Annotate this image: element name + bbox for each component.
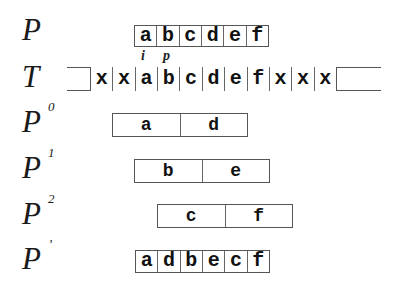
cell: f <box>225 205 293 227</box>
row-label-p2: P2 <box>22 198 54 229</box>
cell: d <box>180 114 248 136</box>
cell: a <box>113 114 180 136</box>
cell: x <box>291 67 313 91</box>
marker-i: i <box>141 49 145 63</box>
cell: a <box>136 251 157 272</box>
label-text: P <box>22 196 41 231</box>
cell: b <box>156 26 178 46</box>
pattern-pprime-strip: a d b e c f <box>135 250 270 273</box>
row-label-p: P <box>22 14 41 45</box>
label-text: P <box>22 104 41 139</box>
cell: b <box>157 67 179 91</box>
cell: x <box>269 67 291 91</box>
cell: c <box>179 67 201 91</box>
label-text: P <box>22 150 41 185</box>
cell: a <box>135 67 157 91</box>
label-superscript: 1 <box>48 145 55 160</box>
cell: f <box>246 26 268 46</box>
cell: e <box>202 160 270 182</box>
marker-p: p <box>163 49 170 63</box>
cell: b <box>135 160 202 182</box>
pattern-p0-strip: a d <box>112 113 248 137</box>
label-superscript: 2 <box>48 191 55 206</box>
cell: c <box>224 251 246 272</box>
cell: c <box>179 26 201 46</box>
label-superscript: 0 <box>48 99 55 114</box>
row-label-p0: P0 <box>22 106 54 137</box>
label-text: P <box>22 241 41 276</box>
label-text: T <box>22 59 39 94</box>
text-t-strip: x x a b c d e f x x x <box>90 67 337 91</box>
row-label-pprime: P’ <box>22 243 52 274</box>
cell: a <box>135 26 156 46</box>
pattern-p-strip: a b c d e f <box>134 25 269 47</box>
label-text: P <box>22 12 41 47</box>
cell: f <box>247 67 269 91</box>
label-superscript: ’ <box>48 236 52 251</box>
row-label-p1: P1 <box>22 152 54 183</box>
cell: x <box>314 67 336 91</box>
row-label-t: T <box>22 61 39 92</box>
pattern-p2-strip: c f <box>157 204 293 228</box>
cell: e <box>224 67 246 91</box>
cell: d <box>202 67 224 91</box>
cell: d <box>201 26 223 46</box>
cell: e <box>202 251 224 272</box>
cell: b <box>180 251 202 272</box>
pattern-p1-strip: b e <box>134 159 270 183</box>
cell: e <box>223 26 245 46</box>
cell: x <box>112 67 134 91</box>
cell: f <box>247 251 269 272</box>
cell: d <box>157 251 179 272</box>
cell: c <box>158 205 225 227</box>
cell: x <box>91 67 112 91</box>
